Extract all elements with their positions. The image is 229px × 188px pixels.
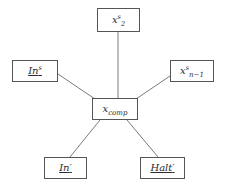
- node-x2s[interactable]: xs2: [97, 8, 140, 32]
- edge-xcomp-to-inprime: [70, 120, 100, 157]
- node-in-s-label: Ins: [28, 66, 42, 76]
- node-in-prime[interactable]: In′: [44, 157, 87, 179]
- node-in-prime-label: In′: [59, 163, 72, 173]
- node-xn-1-s[interactable]: xsn−1: [170, 60, 214, 82]
- edge-xcomp-to-haltprime: [127, 120, 158, 157]
- node-x-comp[interactable]: xcomp: [92, 98, 138, 120]
- node-halt-prime-label: Halt′: [150, 163, 174, 173]
- node-xn-1-s-label: xsn−1: [180, 66, 204, 76]
- node-x-comp-label: xcomp: [103, 104, 128, 114]
- node-x2s-label: xs2: [112, 15, 125, 25]
- edge-ins-to-xcomp: [58, 74, 95, 99]
- node-in-s[interactable]: Ins: [12, 60, 58, 82]
- edge-xn1s-to-xcomp: [136, 76, 170, 99]
- node-halt-prime[interactable]: Halt′: [140, 157, 185, 179]
- diagram-canvas: xs2 Ins xsn−1 xcomp In′ Halt′: [0, 0, 229, 188]
